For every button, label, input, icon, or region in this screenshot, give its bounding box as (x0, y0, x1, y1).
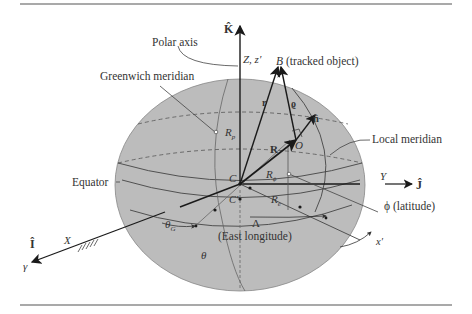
z-axis-label: Z, z′ (243, 53, 262, 65)
polar-axis-leader (178, 46, 238, 66)
tracked-object-label: B(tracked object) (276, 55, 359, 68)
rho-vector-label: ϱ (291, 98, 296, 109)
x-prime-label: x′ (375, 236, 384, 247)
x-axis-label: X (63, 234, 72, 246)
equator-label: Equator (72, 176, 109, 189)
c-label: C (229, 172, 237, 184)
polar-axis-label: Polar axis (152, 36, 198, 48)
o-label: O (295, 139, 303, 151)
local-meridian-label: Local meridian (372, 133, 442, 145)
y-axis-label: Y (380, 170, 388, 182)
r-vector-label: r (262, 97, 267, 108)
k-hat-label: K̂ (224, 22, 234, 36)
i-hat-label: Î (30, 237, 35, 251)
r-station-label: R (270, 143, 279, 155)
greenwich-meridian-label: Greenwich meridian (100, 70, 194, 82)
theta-label: θ (201, 249, 207, 261)
c-prime-label: C′ (229, 194, 239, 205)
j-hat-label: Ĵ (416, 178, 422, 192)
east-longitude-label: (East longitude) (218, 230, 292, 243)
gamma-label: γ (23, 260, 28, 272)
earth-geometry-diagram: K̂ Polar axis Greenwich meridian Z, z′ B… (0, 0, 472, 314)
n-hat-label: n̂ (313, 113, 319, 124)
lambda-label: Λ (252, 217, 260, 229)
latitude-label: ϕ (latitude) (384, 200, 435, 213)
